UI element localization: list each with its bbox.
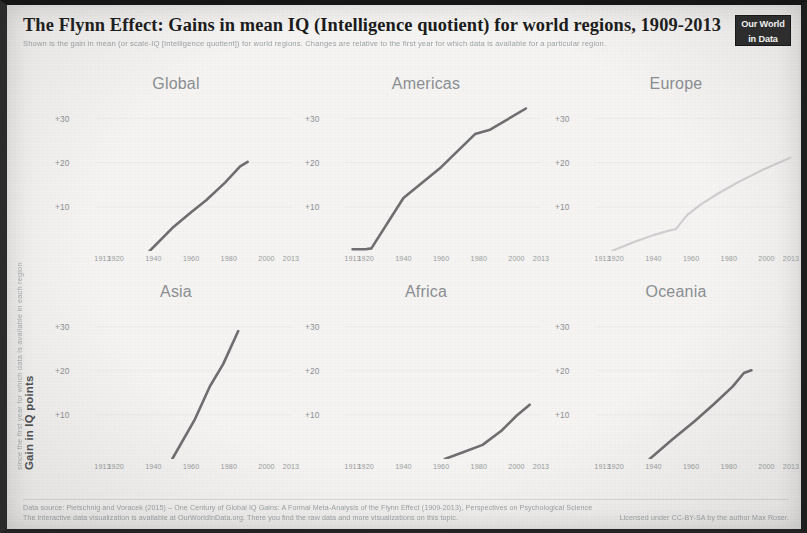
y-tick-label: +30 — [555, 322, 591, 332]
x-tick-label: 1980 — [221, 462, 237, 471]
y-tick-label: +10 — [305, 410, 341, 420]
x-tick-label: 1940 — [145, 462, 161, 471]
plot-area — [595, 309, 791, 459]
x-tick-label: 1980 — [221, 254, 237, 263]
y-axis-label: Gain in IQ points — [23, 375, 35, 470]
page-subtitle: Shown is the gain in mean (or scale-IQ [… — [23, 39, 713, 50]
y-tick-label: +10 — [305, 202, 341, 212]
x-tick-label: 1920 — [608, 462, 624, 471]
x-axis: 1913192019401960198020002013 — [345, 251, 541, 267]
x-tick-label: 1940 — [645, 254, 661, 263]
x-tick-label: 1940 — [395, 462, 411, 471]
panel-africa: Africa+10+20+301913192019401960198020002… — [303, 283, 549, 485]
plot-africa: +10+20+301913192019401960198020002013 — [303, 309, 549, 459]
footer-source: Data source: Pietschnig and Voracek (201… — [23, 503, 789, 513]
y-tick-label: +10 — [55, 410, 91, 420]
x-tick-label: 2000 — [258, 254, 274, 263]
x-tick-label: 1960 — [683, 254, 699, 263]
x-tick-label: 2000 — [758, 462, 774, 471]
y-tick-label: +20 — [305, 158, 341, 168]
x-tick-label: 1980 — [471, 462, 487, 471]
x-tick-label: 1960 — [683, 462, 699, 471]
x-tick-label: 1920 — [108, 462, 124, 471]
x-tick-label: 1940 — [145, 254, 161, 263]
chart-frame: The Flynn Effect: Gains in mean IQ (Inte… — [0, 0, 807, 533]
y-tick-label: +20 — [555, 366, 591, 376]
owid-logo[interactable]: Our World in Data — [735, 15, 791, 46]
y-tick-label: +10 — [55, 202, 91, 212]
y-tick-label: +30 — [305, 322, 341, 332]
plot-area — [95, 101, 291, 251]
footer-interactive-note[interactable]: The interactive data visualization is av… — [23, 513, 458, 523]
panel-title-asia: Asia — [53, 283, 299, 301]
x-axis: 1913192019401960198020002013 — [345, 459, 541, 475]
panel-title-europe: Europe — [553, 75, 799, 93]
owid-logo-line1: Our World — [736, 17, 790, 32]
x-tick-label: 2000 — [508, 462, 524, 471]
x-tick-label: 1920 — [358, 462, 374, 471]
y-tick-label: +30 — [55, 322, 91, 332]
plot-asia: +10+20+301913192019401960198020002013 — [53, 309, 299, 459]
chart-footer: Data source: Pietschnig and Voracek (201… — [23, 499, 789, 523]
chart-header: The Flynn Effect: Gains in mean IQ (Inte… — [23, 13, 791, 71]
x-tick-label: 1960 — [433, 254, 449, 263]
x-tick-label: 2000 — [758, 254, 774, 263]
y-tick-label: +10 — [555, 410, 591, 420]
x-tick-label: 1920 — [608, 254, 624, 263]
y-tick-label: +30 — [305, 114, 341, 124]
x-tick-label: 1960 — [433, 462, 449, 471]
x-tick-label: 1960 — [183, 462, 199, 471]
plot-europe: +10+20+301913192019401960198020002013 — [553, 101, 799, 251]
x-tick-label: 1980 — [721, 254, 737, 263]
panel-title-global: Global — [53, 75, 299, 93]
y-axis-caption: Gain in IQ points since the first year f… — [19, 110, 37, 470]
page-title: The Flynn Effect: Gains in mean IQ (Inte… — [23, 13, 791, 37]
panel-asia: Asia+10+20+30191319201940196019802000201… — [53, 283, 299, 485]
plot-area — [95, 309, 291, 459]
panel-title-oceania: Oceania — [553, 283, 799, 301]
plot-area — [345, 101, 541, 251]
panel-global: Global+10+20+301913192019401960198020002… — [53, 75, 299, 277]
x-tick-label: 1940 — [395, 254, 411, 263]
panel-grid: Global+10+20+301913192019401960198020002… — [53, 75, 801, 487]
y-tick-label: +20 — [305, 366, 341, 376]
x-tick-label: 1940 — [645, 462, 661, 471]
series-line-americas[interactable] — [353, 109, 526, 250]
y-tick-label: +20 — [55, 366, 91, 376]
x-tick-label: 2013 — [283, 254, 299, 263]
x-tick-label: 1980 — [471, 254, 487, 263]
x-axis: 1913192019401960198020002013 — [95, 459, 291, 475]
x-tick-label: 2013 — [783, 462, 799, 471]
series-line-africa[interactable] — [445, 405, 530, 459]
plot-global: +10+20+301913192019401960198020002013 — [53, 101, 299, 251]
x-tick-label: 1980 — [721, 462, 737, 471]
panel-title-americas: Americas — [303, 75, 549, 93]
x-tick-label: 1920 — [108, 254, 124, 263]
y-tick-label: +20 — [55, 158, 91, 168]
owid-logo-line2: in Data — [736, 32, 790, 47]
y-tick-label: +30 — [555, 114, 591, 124]
x-tick-label: 2013 — [783, 254, 799, 263]
panel-americas: Americas+10+20+3019131920194019601980200… — [303, 75, 549, 277]
series-line-europe[interactable] — [612, 157, 791, 251]
y-tick-label: +20 — [555, 158, 591, 168]
x-tick-label: 1960 — [183, 254, 199, 263]
x-axis: 1913192019401960198020002013 — [595, 251, 791, 267]
plot-area — [595, 101, 791, 251]
series-line-asia[interactable] — [172, 331, 238, 459]
plot-area — [345, 309, 541, 459]
panel-europe: Europe+10+20+301913192019401960198020002… — [553, 75, 799, 277]
x-tick-label: 2000 — [508, 254, 524, 263]
y-axis-sublabel: since the first year for which data is a… — [15, 262, 24, 470]
x-tick-label: 2013 — [533, 462, 549, 471]
plot-americas: +10+20+301913192019401960198020002013 — [303, 101, 549, 251]
y-tick-label: +10 — [555, 202, 591, 212]
x-tick-label: 2013 — [533, 254, 549, 263]
x-tick-label: 2000 — [258, 462, 274, 471]
x-axis: 1913192019401960198020002013 — [595, 459, 791, 475]
plot-oceania: +10+20+301913192019401960198020002013 — [553, 309, 799, 459]
footer-license: Licensed under CC-BY-SA by the author Ma… — [620, 513, 789, 523]
panel-title-africa: Africa — [303, 283, 549, 301]
x-tick-label: 1920 — [358, 254, 374, 263]
panel-oceania: Oceania+10+20+30191319201940196019802000… — [553, 283, 799, 485]
